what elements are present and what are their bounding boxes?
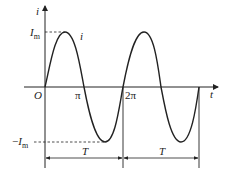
waveform-diagram: i t O i Im −Im π 2π T T — [0, 0, 227, 187]
x-axis-label: t — [210, 88, 214, 100]
positive-amplitude-label: Im — [29, 26, 41, 41]
origin-label: O — [34, 89, 42, 101]
y-axis-label: i — [36, 5, 39, 17]
period-label-2: T — [159, 145, 166, 157]
period-label-1: T — [82, 145, 89, 157]
negative-amplitude-label: −Im — [12, 135, 29, 150]
curve-label: i — [80, 30, 83, 42]
tick-label-pi: π — [75, 89, 81, 101]
tick-label-2pi: 2π — [125, 89, 137, 101]
